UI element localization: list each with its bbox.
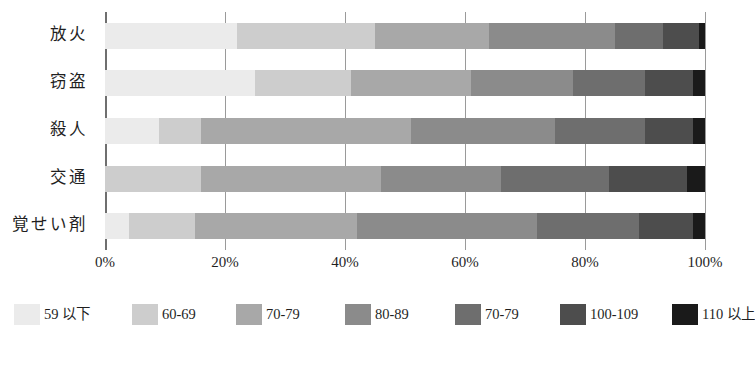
bar-row bbox=[105, 23, 705, 49]
bar-segment bbox=[687, 166, 705, 192]
x-tick-label-80: 80% bbox=[571, 254, 599, 271]
bar-segment bbox=[537, 213, 639, 239]
bar-segment bbox=[357, 213, 537, 239]
y-axis-label-1: 窃盗 bbox=[0, 74, 88, 91]
bar-segment bbox=[555, 118, 645, 144]
bar-segment bbox=[201, 118, 411, 144]
bar-segment bbox=[699, 23, 705, 49]
legend-swatch-icon bbox=[672, 304, 698, 325]
x-tick-label-20: 20% bbox=[211, 254, 239, 271]
bar-segment bbox=[105, 166, 201, 192]
legend-label: 60-69 bbox=[162, 307, 196, 322]
y-axis-label-4: 覚せい剤 bbox=[0, 217, 88, 234]
legend-item[interactable]: 100-109 bbox=[560, 302, 638, 326]
bar-row bbox=[105, 70, 705, 96]
bar-segment bbox=[381, 166, 501, 192]
bar-row bbox=[105, 213, 705, 239]
legend-label: 70-79 bbox=[485, 307, 519, 322]
legend-swatch-icon bbox=[236, 304, 262, 325]
y-axis-label-2: 殺人 bbox=[0, 122, 88, 139]
legend-item[interactable]: 110 以上 bbox=[672, 302, 755, 326]
bar-segment bbox=[615, 23, 663, 49]
legend-item[interactable]: 70-79 bbox=[236, 302, 300, 326]
bar-segment bbox=[663, 23, 699, 49]
bar-segment bbox=[693, 118, 705, 144]
x-tick-label-40: 40% bbox=[331, 254, 359, 271]
y-axis-label-3: 交通 bbox=[0, 170, 88, 187]
bar-segment bbox=[693, 213, 705, 239]
bar-segment bbox=[105, 118, 159, 144]
bar-row bbox=[105, 166, 705, 192]
x-tick-label-0: 0% bbox=[95, 254, 115, 271]
x-tick-label-60: 60% bbox=[451, 254, 479, 271]
legend-swatch-icon bbox=[14, 304, 40, 325]
legend-swatch-icon bbox=[345, 304, 371, 325]
bar-segment bbox=[351, 70, 471, 96]
bar-segment bbox=[105, 213, 129, 239]
bar-segment bbox=[639, 213, 693, 239]
gridline-100 bbox=[705, 12, 706, 250]
bar-segment bbox=[411, 118, 555, 144]
chart-legend: 59 以下60-6970-7980-8970-79100-109110 以上 bbox=[0, 296, 717, 338]
bar-segment bbox=[201, 166, 381, 192]
bar-series-container bbox=[105, 12, 705, 250]
bar-segment bbox=[471, 70, 573, 96]
bar-segment bbox=[159, 118, 201, 144]
legend-label: 100-109 bbox=[590, 307, 638, 322]
x-axis-tick-labels: 0%20%40%60%80%100% bbox=[0, 254, 717, 284]
legend-label: 70-79 bbox=[266, 307, 300, 322]
bar-segment bbox=[693, 70, 705, 96]
legend-item[interactable]: 80-89 bbox=[345, 302, 409, 326]
x-tick-label-100: 100% bbox=[688, 254, 723, 271]
y-axis-category-labels: 放火窃盗殺人交通覚せい剤 bbox=[0, 12, 100, 250]
bar-segment bbox=[237, 23, 375, 49]
bar-segment bbox=[375, 23, 489, 49]
legend-swatch-icon bbox=[560, 304, 586, 325]
legend-swatch-icon bbox=[132, 304, 158, 325]
bar-row bbox=[105, 118, 705, 144]
legend-label: 110 以上 bbox=[702, 307, 755, 322]
legend-label: 59 以下 bbox=[44, 307, 90, 322]
plot-area: 放火窃盗殺人交通覚せい剤 bbox=[0, 0, 717, 290]
bar-segment bbox=[255, 70, 351, 96]
bar-segment bbox=[489, 23, 615, 49]
bar-segment bbox=[129, 213, 195, 239]
bar-segment bbox=[573, 70, 645, 96]
bar-segment bbox=[105, 23, 237, 49]
legend-item[interactable]: 59 以下 bbox=[14, 302, 90, 326]
bar-segment bbox=[105, 70, 255, 96]
bar-segment bbox=[645, 118, 693, 144]
legend-item[interactable]: 60-69 bbox=[132, 302, 196, 326]
legend-swatch-icon bbox=[455, 304, 481, 325]
y-axis-label-0: 放火 bbox=[0, 27, 88, 44]
bar-segment bbox=[645, 70, 693, 96]
legend-item[interactable]: 70-79 bbox=[455, 302, 519, 326]
bar-segment bbox=[609, 166, 687, 192]
bar-segment bbox=[195, 213, 357, 239]
legend-label: 80-89 bbox=[375, 307, 409, 322]
bar-segment bbox=[501, 166, 609, 192]
